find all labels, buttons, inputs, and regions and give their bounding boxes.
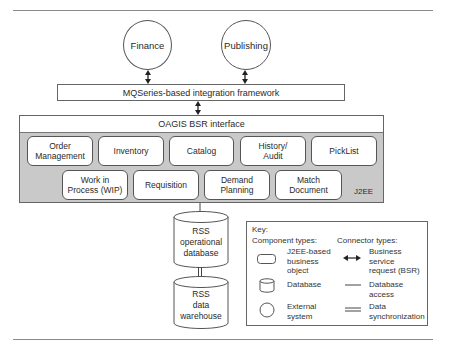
business-object-picklist: PickList bbox=[311, 136, 377, 166]
business-object-catalog: Catalog bbox=[169, 136, 234, 166]
bsr-connector-key-icon bbox=[343, 254, 361, 262]
component-types-heading: Component types: bbox=[252, 236, 317, 246]
key-business-object-label: J2EE-based business object bbox=[287, 247, 331, 276]
key-title: Key: bbox=[252, 225, 268, 235]
legend-key: Key: Component types: Connector types: J… bbox=[246, 221, 428, 326]
data-sync-key-icon bbox=[345, 307, 361, 312]
external-system-publishing: Publishing bbox=[221, 20, 271, 70]
oagis-bsr-interface: OAGIS BSR interface bbox=[20, 116, 383, 133]
business-object-demand-planning: Demand Planning bbox=[204, 170, 270, 200]
key-external-system-label: External system bbox=[287, 302, 316, 321]
integration-framework: MQSeries-based integration framework bbox=[57, 84, 345, 101]
database-access-key-icon bbox=[345, 284, 361, 286]
bsr-arrow-publishing-icon bbox=[241, 70, 249, 84]
business-object-work-in-process: Work in Process (WIP) bbox=[62, 170, 128, 200]
external-system-finance: Finance bbox=[123, 20, 172, 70]
business-object-requisition: Requisition bbox=[133, 170, 199, 200]
business-object-inventory: Inventory bbox=[98, 136, 164, 166]
j2ee-container: OAGIS BSR interface Order Management Inv… bbox=[19, 115, 384, 203]
integration-framework-label: MQSeries-based integration framework bbox=[123, 88, 280, 98]
connector-types-heading: Connector types: bbox=[337, 236, 397, 246]
publishing-label: Publishing bbox=[224, 40, 268, 51]
key-data-sync-label: Data synchronization bbox=[369, 302, 425, 321]
finance-label: Finance bbox=[131, 40, 165, 51]
bsr-arrow-framework-icon bbox=[194, 101, 202, 115]
bottom-rule bbox=[13, 339, 433, 340]
bsr-arrow-finance-icon bbox=[144, 70, 152, 84]
top-rule bbox=[13, 10, 433, 11]
business-object-history-audit: History/ Audit bbox=[240, 136, 306, 166]
rss-operational-database-label: RSS operational database bbox=[173, 226, 229, 259]
external-system-key-icon bbox=[259, 302, 275, 318]
key-bsr-label: Business service request (BSR) bbox=[369, 247, 427, 276]
business-object-match-document: Match Document bbox=[275, 170, 342, 200]
oagis-bsr-interface-label: OAGIS BSR interface bbox=[158, 119, 245, 129]
key-database-access-label: Database access bbox=[369, 280, 427, 299]
j2ee-label: J2EE bbox=[354, 187, 373, 196]
business-object-order-management: Order Management bbox=[27, 136, 93, 166]
key-database-label: Database bbox=[287, 280, 321, 290]
database-key-icon bbox=[259, 278, 275, 293]
business-object-key-icon bbox=[257, 254, 277, 265]
rss-data-warehouse-label: RSS data warehouse bbox=[173, 289, 229, 322]
